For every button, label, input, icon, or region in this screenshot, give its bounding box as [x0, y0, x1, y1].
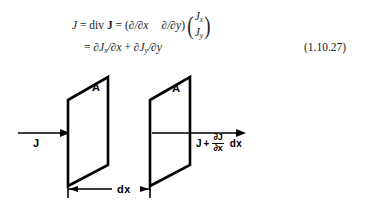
partial-jy-denominator: /∂y — [148, 41, 162, 53]
row-vector-close-paren: ) — [181, 19, 185, 31]
inflow-label: J — [33, 137, 39, 149]
figure-page: J = div J = (∂/∂x∂/∂y)(JxJy) = ∂Jx/∂x + … — [0, 0, 374, 208]
equation-equals-2: = — [116, 19, 123, 31]
column-vector-stack: JxJy — [195, 10, 203, 42]
column-vector-bottom: Jy — [195, 26, 203, 42]
flux-diagram: A A J dx J + ∂J ∂x dx — [0, 66, 374, 208]
partial-operator-y: ∂/∂y — [161, 19, 181, 31]
column-vector: (JxJy) — [186, 10, 212, 42]
equation-line2-equals: = — [84, 41, 91, 53]
divergence-operator: div — [89, 19, 104, 31]
equation-block: J = div J = (∂/∂x∂/∂y)(JxJy) = ∂Jx/∂x + … — [0, 0, 374, 66]
area-label-left: A — [92, 81, 100, 93]
column-vector-close-paren: ) — [204, 13, 210, 39]
column-vector-top-subscript: x — [200, 15, 203, 24]
flux-diagram-svg — [0, 66, 374, 208]
outflow-fraction: ∂J ∂x — [212, 133, 223, 153]
area-label-right: A — [172, 82, 180, 94]
dimension-label-dx: dx — [117, 183, 131, 195]
column-vector-bottom-subscript: y — [200, 31, 203, 40]
divergence-argument: J — [107, 19, 113, 31]
outflow-plus: + — [204, 138, 210, 149]
partial-jx-numerator: ∂J — [93, 41, 104, 53]
outflow-label: J + ∂J ∂x dx — [196, 133, 242, 153]
equation-line-2: = ∂Jx/∂x + ∂Jy/∂y — [84, 41, 162, 55]
parallelogram-right — [150, 77, 190, 186]
partial-operator-x: ∂/∂x — [129, 19, 149, 31]
equation-equals-1: = — [80, 19, 87, 31]
partial-jy-numerator: ∂J — [134, 41, 145, 53]
outflow-fraction-denominator: ∂x — [212, 144, 223, 154]
equation-line-1: J = div J = (∂/∂x∂/∂y)(JxJy) — [72, 10, 212, 42]
partial-jx-denominator: /∂x — [108, 41, 122, 53]
equation-number: (1.10.27) — [304, 41, 346, 53]
outflow-base: J — [196, 138, 202, 149]
outflow-suffix: dx — [230, 138, 242, 149]
parallelogram-left — [68, 77, 108, 186]
equation-line2-plus: + — [124, 41, 131, 53]
equation-lhs: J — [72, 19, 77, 31]
column-vector-open-paren: ( — [187, 13, 193, 39]
outflow-fraction-numerator: ∂J — [212, 133, 223, 144]
inflow-arrow — [18, 129, 70, 137]
column-vector-top: Jx — [195, 10, 203, 26]
